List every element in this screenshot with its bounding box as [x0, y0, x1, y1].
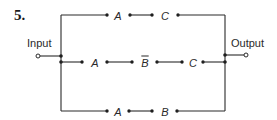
input-terminal-icon — [36, 54, 40, 58]
switch-contact-dot — [80, 60, 83, 63]
branch-bottom — [61, 109, 225, 112]
switch-label-middle-c: C — [189, 58, 197, 69]
output-junction-dot — [223, 53, 227, 57]
output-label: Output — [231, 37, 264, 49]
switch-label-top-c: C — [161, 11, 169, 22]
switch-label-bottom-a: A — [114, 107, 121, 118]
switch-contact-dot — [105, 109, 108, 112]
branch-top — [61, 13, 225, 16]
switch-label-bottom-b: B — [161, 107, 168, 118]
switch-contact-dot — [105, 13, 108, 16]
switch-label-middle-b-bar: B — [141, 58, 148, 69]
switch-contact-dot — [180, 60, 183, 63]
switch-contact-dot — [130, 60, 133, 63]
switch-contact-dot — [150, 13, 153, 16]
switch-label-top-a: A — [114, 11, 121, 22]
input-label: Input — [27, 37, 51, 49]
input-junction-dot — [59, 54, 63, 58]
switch-label-middle-a: A — [91, 58, 98, 69]
switch-contact-dot — [150, 109, 153, 112]
circuit-wiring — [0, 0, 277, 120]
output-terminal-icon — [244, 53, 248, 57]
middle-right-junction-dot — [223, 60, 227, 64]
